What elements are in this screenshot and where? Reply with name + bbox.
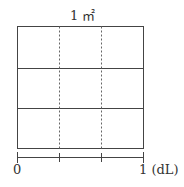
scale-bar xyxy=(18,152,144,163)
unit-square xyxy=(18,27,144,149)
scale-start-label: 0 xyxy=(13,162,21,177)
unit-square-diagram xyxy=(0,0,184,187)
scale-end-label: 1 (dL) xyxy=(139,162,179,177)
